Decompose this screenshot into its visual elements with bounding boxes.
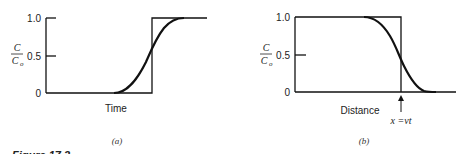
ytick-1-b: 1.0 xyxy=(276,12,290,23)
ylabel-den-b: C xyxy=(261,55,268,66)
s-curve-b xyxy=(364,17,436,92)
ytick-05-b: 0.5 xyxy=(276,50,290,61)
ytick-0-a: 0 xyxy=(35,88,41,99)
ylabel-sub-a: o xyxy=(20,60,24,68)
ytick-05-a: 0.5 xyxy=(27,51,41,62)
arrow-up-icon xyxy=(398,95,404,101)
xlabel-b: Distance xyxy=(341,105,380,116)
caption-b: (b) xyxy=(359,136,370,146)
xlabel-a: Time xyxy=(105,103,127,114)
ylabel-sub-b: o xyxy=(269,60,273,68)
ytick-0-b: 0 xyxy=(284,87,290,98)
ytick-1-a: 1.0 xyxy=(27,13,41,24)
ylabel-num-a: C xyxy=(14,42,21,53)
annotation-x-vt: x =vt xyxy=(390,115,412,126)
ylabel-den-a: C xyxy=(12,55,19,66)
panel-b: 1.0 0.5 0 C C o Distance x =vt (b) xyxy=(260,12,456,146)
step-line-a xyxy=(46,18,207,93)
ylabel-num-b: C xyxy=(263,42,270,53)
figure: 1.0 0.5 0 C C o Time (a) 1.0 0.5 0 C C o… xyxy=(0,0,463,154)
caption-a: (a) xyxy=(112,136,123,146)
figure-caption: Figure 17.2 xyxy=(12,149,70,154)
panel-a: 1.0 0.5 0 C C o Time (a) xyxy=(11,13,207,146)
s-curve-a xyxy=(114,18,184,93)
